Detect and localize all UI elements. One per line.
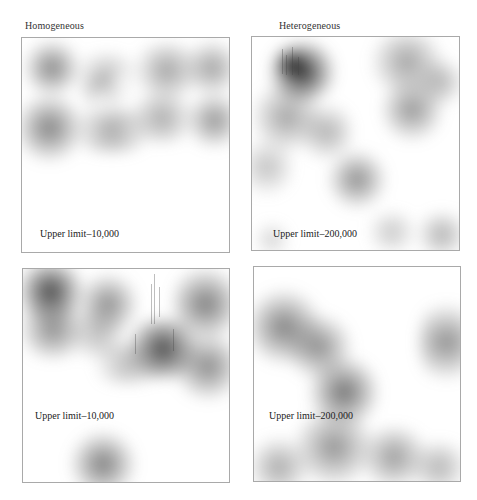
upper-limit-label: Upper limit–200,000 bbox=[273, 228, 357, 239]
density-field bbox=[23, 269, 229, 482]
upper-limit-label: Upper limit–10,000 bbox=[40, 228, 119, 239]
density-field bbox=[22, 38, 229, 252]
density-field bbox=[254, 267, 460, 481]
upper-limit-label: Upper limit–200,000 bbox=[269, 410, 353, 421]
density-map-top-left: Upper limit–10,000 bbox=[21, 37, 230, 253]
upper-limit-label: Upper limit–10,000 bbox=[35, 410, 114, 421]
density-map-top-right: Upper limit–200,000 bbox=[251, 36, 460, 251]
density-map-bottom-left: Upper limit–10,000 bbox=[22, 268, 230, 483]
column-title-heterogeneous: Heterogeneous bbox=[279, 20, 340, 31]
density-map-bottom-right: Upper limit–200,000 bbox=[253, 266, 461, 482]
column-title-homogeneous: Homogeneous bbox=[25, 20, 84, 31]
density-field bbox=[252, 37, 459, 250]
